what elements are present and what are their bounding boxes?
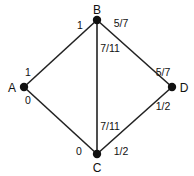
edge-label-cd-d: 1/2 xyxy=(156,100,171,112)
edge-label-bd-b: 5/7 xyxy=(114,17,129,29)
edge-label-ab-b: 1 xyxy=(77,19,83,31)
edge-label-cd-c: 1/2 xyxy=(114,145,129,157)
edge-label-bc-b: 7/11 xyxy=(100,42,120,54)
edges-layer xyxy=(24,20,172,154)
node-label-a: A xyxy=(8,81,16,95)
edge-ab xyxy=(24,20,97,87)
edge-label-ac-c: 0 xyxy=(76,145,82,157)
node-d xyxy=(168,83,176,91)
node-label-b: B xyxy=(93,3,101,17)
edge-label-ab-a: 1 xyxy=(25,66,31,78)
node-label-c: C xyxy=(93,161,102,175)
node-label-d: D xyxy=(180,81,189,95)
nodes-layer: ABCD xyxy=(8,3,189,175)
node-a xyxy=(20,83,28,91)
edge-label-ac-a: 0 xyxy=(25,94,31,106)
edge-label-bd-d: 5/7 xyxy=(156,66,171,78)
graph-diagram: 115/75/77/117/11001/21/2 ABCD xyxy=(0,0,194,176)
edge-label-bc-c: 7/11 xyxy=(100,120,120,132)
node-c xyxy=(93,150,101,158)
node-b xyxy=(93,16,101,24)
edge-ac xyxy=(24,87,97,154)
